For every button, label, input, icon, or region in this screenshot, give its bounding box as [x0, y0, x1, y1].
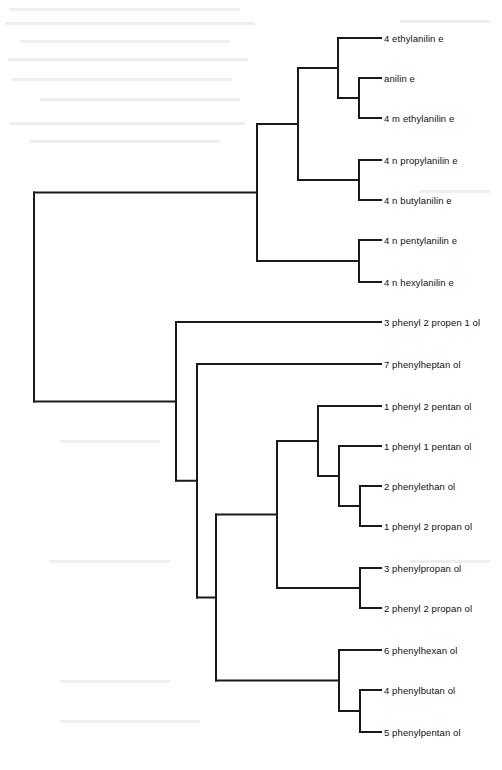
- leaf-label: 5 phenylpentan ol: [384, 727, 461, 738]
- leaf-label: 6 phenylhexan ol: [384, 645, 457, 656]
- leaf-label: 4 n hexylanilin e: [384, 277, 454, 288]
- leaf-label: 2 phenyl 2 propan ol: [384, 603, 472, 614]
- leaf-label: 4 n pentylanilin e: [384, 235, 457, 246]
- leaf-label: 4 n propylanilin e: [384, 155, 458, 166]
- leaf-label: 4 m ethylanilin e: [384, 113, 454, 124]
- leaf-label: 1 phenyl 2 propan ol: [384, 521, 472, 532]
- dendrogram: 4 ethylanilin eanilin e4 m ethylanilin e…: [0, 0, 502, 770]
- dendrogram-edges: [34, 38, 381, 732]
- leaf-label: 4 phenylbutan ol: [384, 685, 455, 696]
- leaf-label: 1 phenyl 2 pentan ol: [384, 401, 472, 412]
- leaf-label: 2 phenylethan ol: [384, 481, 455, 492]
- leaf-labels: 4 ethylanilin eanilin e4 m ethylanilin e…: [384, 33, 480, 738]
- leaf-label: 1 phenyl 1 pentan ol: [384, 441, 472, 452]
- leaf-label: 3 phenyl 2 propen 1 ol: [384, 317, 480, 328]
- leaf-label: 7 phenylheptan ol: [384, 359, 461, 370]
- leaf-label: 4 ethylanilin e: [384, 33, 444, 44]
- leaf-label: 3 phenylpropan ol: [384, 563, 461, 574]
- leaf-label: 4 n butylanilin e: [384, 195, 452, 206]
- leaf-label: anilin e: [384, 73, 415, 84]
